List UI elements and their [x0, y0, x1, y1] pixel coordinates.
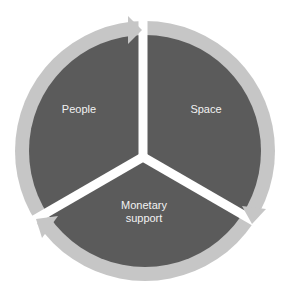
sector-label-space: Space	[190, 103, 221, 116]
cycle-diagram	[0, 0, 286, 299]
sector-label-line2: support	[121, 212, 167, 225]
sector-label-line1: Monetary	[121, 199, 167, 212]
sector-label-people: People	[62, 103, 96, 116]
sector-label-monetary-support: Monetary support	[121, 199, 167, 225]
